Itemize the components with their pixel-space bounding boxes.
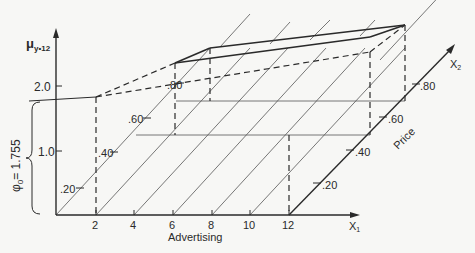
regression-plane-diagram: 2.0 1.0 μy•12 2 4 6 8 10 12 Advertising … (0, 0, 475, 253)
x2-tick-label: .60 (388, 113, 403, 125)
y-axis-arrow (53, 28, 59, 38)
x1-tick-label: 6 (169, 219, 175, 231)
plane-edge-lower-left (29, 97, 96, 101)
x2-gridline (56, 48, 210, 215)
x2-gridline (134, 48, 288, 215)
x1-axis-name: Advertising (168, 231, 222, 243)
y-axis-label: μy•12 (26, 36, 51, 53)
x2-tick-label: .40 (355, 146, 370, 158)
x2-gridline-ext (220, 14, 250, 47)
x2-gridline-ext (310, 20, 330, 40)
x1-ticks (96, 210, 289, 215)
x2-axis-name: Price (391, 125, 417, 151)
plane-edge-left-diag (96, 63, 175, 97)
left-x2-tick-label: .60 (128, 113, 143, 125)
left-x2-tick-label: .20 (60, 183, 75, 195)
x2-axis-label: X2 (450, 58, 461, 71)
x2-gridline (173, 48, 326, 215)
x1-tick-label: 12 (282, 219, 294, 231)
x1-tick-label: 10 (243, 219, 255, 231)
plane-edge-front (96, 52, 370, 97)
x1-axis-arrow (350, 212, 360, 218)
x1-tick-label: 2 (92, 219, 98, 231)
y-tick-label-1: 1.0 (38, 145, 55, 159)
x2-tick-label: .80 (420, 80, 435, 92)
left-x2-tick-label: .40 (98, 147, 113, 159)
left-x2-ticks (76, 83, 184, 188)
response-plane (29, 25, 405, 215)
x1-axis-label: X1 (349, 220, 360, 233)
floor-grid (56, 0, 445, 215)
x1-tick-label: 8 (208, 219, 214, 231)
intercept-label: φ0= 1.755 (9, 139, 25, 192)
x2-gridline (96, 48, 250, 215)
x2-tick-label: .20 (322, 179, 337, 191)
y-tick-label-2: 2.0 (34, 80, 51, 94)
x1-tick-label: 4 (130, 219, 136, 231)
